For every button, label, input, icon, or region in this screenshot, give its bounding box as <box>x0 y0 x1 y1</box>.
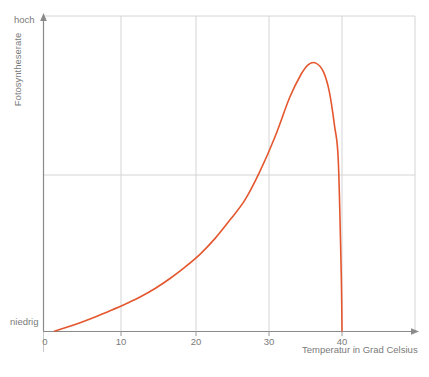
y-axis-tick-label-low: niedrig <box>10 316 39 327</box>
photosynthesis-rate-curve <box>55 63 342 331</box>
x-axis-tick-label-10: 10 <box>116 337 127 347</box>
x-axis-tick-label-20: 20 <box>191 337 202 347</box>
x-axis-tick-label-0: 0 <box>42 337 47 347</box>
x-axis-tick-label-30: 30 <box>264 337 275 347</box>
photosynthesis-temperature-chart: hoch niedrig Fotosyntheserate 0 10 20 30… <box>0 0 429 377</box>
y-axis-arrowhead <box>40 13 47 21</box>
x-axis-title: Temperatur in Grad Celsius <box>302 344 418 355</box>
plot-area <box>0 0 429 377</box>
y-axis-title: Fotosyntheserate <box>12 20 23 120</box>
